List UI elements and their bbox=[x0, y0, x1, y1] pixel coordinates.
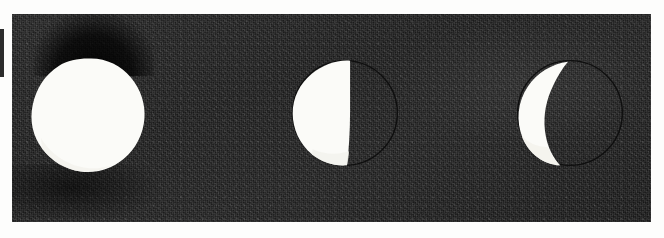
photographic-plate bbox=[12, 14, 651, 222]
moon-phases-figure bbox=[0, 0, 664, 238]
edge-fragment-artifact bbox=[0, 29, 4, 77]
full-moon bbox=[23, 50, 153, 180]
half-moon bbox=[283, 51, 408, 176]
crescent-moon bbox=[508, 51, 633, 176]
